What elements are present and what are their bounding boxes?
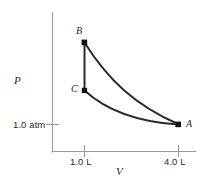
x-axis-title: V — [116, 166, 123, 177]
pv-diagram-figure: B C A P V 1.0 atm 1.0 L 4.0 L — [0, 0, 203, 184]
state-marker-c — [82, 88, 87, 93]
state-label-c: C — [71, 84, 78, 94]
x-tick-label-4L: 4.0 L — [164, 157, 186, 167]
state-label-b: B — [76, 26, 82, 36]
process-path-b-to-a — [85, 43, 179, 125]
x-tick-label-1L: 1.0 L — [70, 157, 92, 167]
state-marker-a — [175, 122, 181, 128]
y-tick-label-1atm: 1.0 atm — [13, 120, 45, 130]
y-axis-title: P — [14, 75, 21, 86]
state-label-a: A — [186, 119, 192, 129]
state-marker-b — [82, 40, 88, 46]
